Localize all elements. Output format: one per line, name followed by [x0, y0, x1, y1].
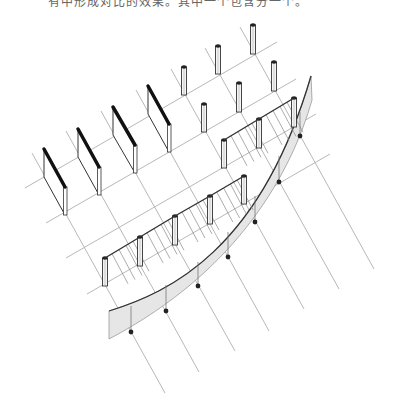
intersection-dot [226, 255, 231, 260]
post [207, 194, 213, 224]
post [221, 138, 227, 168]
hatch-line [266, 115, 282, 145]
post-cap [201, 102, 207, 106]
post-cap [181, 65, 187, 69]
post [291, 96, 297, 127]
wall-panel [44, 149, 67, 215]
wall-edge [134, 145, 138, 173]
intersection-dot [277, 180, 282, 185]
post-cap [236, 81, 242, 85]
post-cap [250, 23, 256, 27]
wall-panel [78, 129, 101, 195]
post [201, 102, 207, 132]
band-top-curve [109, 76, 311, 311]
post [102, 256, 108, 286]
isometric-diagram [0, 0, 395, 417]
post [172, 214, 178, 245]
post [271, 60, 277, 91]
wall-edge [168, 124, 172, 152]
intersection-dot [298, 134, 303, 139]
hatch-line [112, 254, 128, 284]
post [250, 23, 256, 54]
wall-edge [98, 167, 102, 195]
wall-panel [148, 86, 171, 152]
post [241, 174, 247, 204]
intersection-dot [196, 284, 201, 289]
intersection-dot [253, 220, 258, 225]
wall-edge [64, 187, 68, 215]
railings [105, 98, 294, 258]
intersection-dot [164, 309, 169, 314]
grid-cross-line [66, 114, 316, 258]
post [137, 235, 143, 266]
post [236, 81, 242, 112]
intersection-dot [129, 330, 134, 335]
post [215, 44, 221, 74]
hatch-line [273, 111, 289, 141]
post-cap [215, 44, 221, 48]
wall-panels [44, 86, 171, 215]
wall-panel [113, 107, 137, 173]
post [181, 65, 187, 95]
post [256, 117, 262, 148]
hatch-line [119, 250, 135, 280]
post-cap [271, 60, 277, 64]
